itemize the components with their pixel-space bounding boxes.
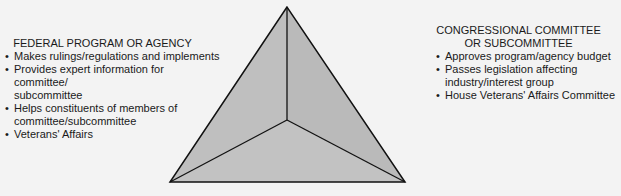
list-item: Passes legislation affecting industry/in… [436,63,621,89]
federal-agency-title: FEDERAL PROGRAM OR AGENCY [5,37,200,50]
congressional-committee-block: CONGRESSIONAL COMMITTEE OR SUBCOMMITTEE … [436,24,621,102]
list-item: Helps constituents of members ofcommitte… [5,102,220,128]
federal-agency-list: Makes rulings/regulations and implements… [5,50,220,141]
congressional-committee-title: CONGRESSIONAL COMMITTEE OR SUBCOMMITTEE [436,24,601,50]
list-item: Veterans' Affairs [5,128,220,141]
federal-agency-block: FEDERAL PROGRAM OR AGENCY Makes rulings/… [5,37,220,141]
list-item: Makes rulings/regulations and implements [5,50,220,63]
list-item: Provides expert information for committe… [5,63,220,102]
list-item: Approves program/agency budget [436,50,621,63]
congressional-committee-list: Approves program/agency budget Passes le… [436,50,621,102]
list-item: House Veterans' Affairs Committee [436,89,621,102]
